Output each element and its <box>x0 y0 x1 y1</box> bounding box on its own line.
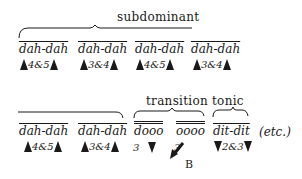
row2-syllables-2: dah-dah <box>78 124 127 138</box>
transition-label: transition <box>146 94 208 108</box>
row1-beat-group-4: 3&4 <box>193 59 231 70</box>
row1-syllables-4: dah-dah <box>191 42 240 56</box>
beat-label: 3&4 <box>88 59 110 70</box>
row1-syllables-2: dah-dah <box>78 42 127 56</box>
up-arrow-icon <box>81 141 89 152</box>
row1-syllables-3: dah-dah <box>135 42 184 56</box>
up-arrow-icon <box>24 141 32 152</box>
transition-beat-1: 3 <box>133 142 156 153</box>
down-arrow-icon <box>214 141 222 152</box>
tonic-label: tonic <box>212 94 244 108</box>
up-arrow-icon <box>136 59 144 70</box>
beat-label: 4&5 <box>32 141 54 152</box>
up-arrow-icon <box>193 59 201 70</box>
tonic-syllables: dit-dit <box>213 124 250 138</box>
row1-beat-group-1: 4&5 <box>20 59 58 70</box>
beat-label: 3&4 <box>201 59 223 70</box>
transition-syllables-2: oooo <box>176 121 205 138</box>
arrow-label-b: B <box>185 158 193 171</box>
row1-syllables-1: dah-dah <box>19 42 68 56</box>
beat-label: 4&5 <box>144 59 166 70</box>
row2-beat-group-1: 4&5 <box>24 141 62 152</box>
up-arrow-icon <box>80 59 88 70</box>
beat-label: 3&4 <box>89 141 111 152</box>
beat-label: 3 <box>133 142 139 153</box>
beat-label: 2&3 <box>222 141 244 152</box>
up-arrow-icon <box>54 141 62 152</box>
transition-syllables-1: dooo <box>134 121 163 138</box>
transition-beat-2: 3 <box>174 142 180 153</box>
down-arrow-icon <box>148 142 156 153</box>
down-arrow-icon <box>244 141 252 152</box>
beat-label: 3 <box>174 142 180 153</box>
beat-label: 4&5 <box>28 59 50 70</box>
up-arrow-icon <box>110 59 118 70</box>
up-arrow-icon <box>166 59 174 70</box>
row2-syllables-1: dah-dah <box>19 124 68 138</box>
row2-beat-group-2: 3&4 <box>81 141 119 152</box>
up-arrow-icon <box>20 59 28 70</box>
row1-beat-group-3: 4&5 <box>136 59 174 70</box>
subdominant-label: subdominant <box>117 10 199 24</box>
up-arrow-icon <box>111 141 119 152</box>
etc-label: (etc.) <box>259 125 291 139</box>
up-arrow-icon <box>223 59 231 70</box>
up-arrow-icon <box>50 59 58 70</box>
row1-beat-group-2: 3&4 <box>80 59 118 70</box>
tonic-beat-group: 2&3 <box>214 141 252 152</box>
